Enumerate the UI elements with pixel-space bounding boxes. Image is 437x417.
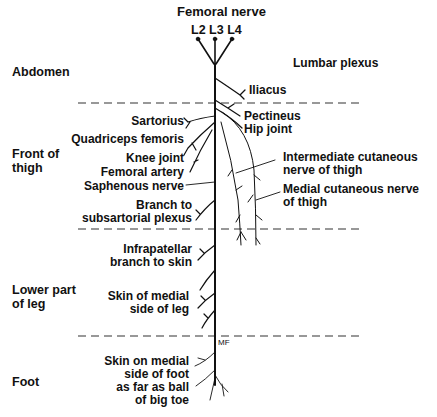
malleolus-mark: MF [218, 338, 230, 347]
label-skin-medial-leg: Skin of medial side of leg [108, 290, 189, 316]
region-lower-leg: Lower part of leg [12, 283, 76, 311]
label-skin-medial-foot: Skin on medial side of foot as far as ba… [104, 355, 189, 407]
label-pectineus-hip: Pectineus Hip joint [244, 110, 301, 136]
subsartorial-branch [196, 200, 215, 220]
intermediate-cutaneous-nerve [221, 122, 246, 245]
nerve-roots [198, 39, 232, 64]
skin-leg-branch [198, 293, 215, 308]
knee-branch [190, 130, 212, 172]
label-knee-joint: Knee joint [126, 152, 184, 165]
label-sartorius: Sartorius [131, 115, 184, 128]
label-iliacus: Iliacus [249, 84, 286, 97]
foot-branches [195, 352, 228, 400]
region-abdomen: Abdomen [12, 65, 70, 79]
iliacus-branch [215, 78, 245, 99]
label-medial-cutaneous: Medial cutaneous nerve of thigh [283, 183, 419, 209]
saphenous-pointer [186, 182, 215, 185]
label-subsartorial: Branch to subsartorial plexus [82, 199, 192, 225]
region-foot: Foot [12, 375, 39, 389]
label-saphenous: Saphenous nerve [84, 180, 184, 193]
label-femoral-artery: Femoral artery [101, 166, 184, 179]
root-l2: L2 [191, 23, 206, 37]
region-front-of-thigh: Front of thigh [12, 147, 59, 175]
infrapatellar-branch [198, 245, 215, 260]
title-femoral-nerve: Femoral nerve [177, 5, 266, 18]
label-intermediate-cutaneous: Intermediate cutaneous nerve of thigh [283, 151, 418, 177]
label-quadriceps: Quadriceps femoris [71, 133, 184, 146]
label-infrapatellar: Infrapatellar branch to skin [110, 243, 192, 269]
root-l4: L4 [227, 23, 242, 37]
quadriceps-branch [184, 122, 215, 155]
root-labels: L2 L3 L4 [191, 24, 242, 37]
root-l3: L3 [209, 23, 224, 37]
lumbar-plexus-label: Lumbar plexus [293, 57, 378, 70]
